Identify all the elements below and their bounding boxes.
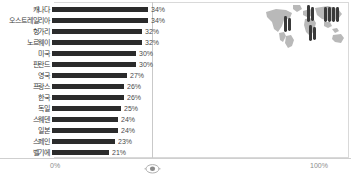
bar-value-label: 24% (121, 126, 135, 135)
bar-track: 30% (52, 48, 351, 59)
bar-row: 영국27% (0, 70, 351, 81)
bar-category-label: 스웨덴 (0, 115, 52, 124)
bar-category-label: 오스트레일리아 (0, 16, 52, 25)
bar-row: 한국26% (0, 92, 351, 103)
bar (52, 84, 124, 89)
bar-value-label: 23% (118, 137, 132, 146)
bar (52, 95, 124, 100)
bar-row: 벨기에21% (0, 147, 351, 158)
bar (52, 150, 109, 155)
bar-track: 24% (52, 125, 351, 136)
bar-value-label: 32% (145, 38, 159, 47)
x-axis-line (0, 158, 351, 159)
axis-center-marker-icon (144, 160, 161, 171)
bar-row: 미국30% (0, 48, 351, 59)
world-map-inset (262, 2, 348, 49)
bar (52, 18, 148, 23)
bar-row: 스페인23% (0, 136, 351, 147)
bar-category-label: 영국 (0, 71, 52, 80)
bar-track: 27% (52, 70, 351, 81)
bar-value-label: 32% (145, 27, 159, 36)
bar-value-label: 27% (130, 71, 144, 80)
bar (52, 40, 142, 45)
bar (52, 73, 127, 78)
bar-value-label: 26% (127, 93, 141, 102)
bar-category-label: 프랑스 (0, 82, 52, 91)
bar-category-label: 한국 (0, 93, 52, 102)
bar (52, 62, 136, 67)
bar-track: 21% (52, 147, 351, 158)
bar-category-label: 핀란드 (0, 60, 52, 69)
bar (52, 51, 136, 56)
bar-category-label: 미국 (0, 49, 52, 58)
bar-row: 스웨덴24% (0, 114, 351, 125)
bar-row: 독일25% (0, 103, 351, 114)
x-axis-tick-0: 0% (50, 162, 60, 169)
bar (52, 117, 118, 122)
bar (52, 29, 142, 34)
x-axis-tick-100: 100% (310, 162, 328, 169)
bar-chart: 캐나다34%오스트레일리아34%헝가리32%노르웨이32%미국30%핀란드30%… (0, 0, 351, 183)
bar (52, 7, 148, 12)
bar-category-label: 노르웨이 (0, 38, 52, 47)
bar-track: 24% (52, 114, 351, 125)
bar-category-label: 독일 (0, 104, 52, 113)
bar-category-label: 스페인 (0, 137, 52, 146)
bar-track: 25% (52, 103, 351, 114)
bar-value-label: 21% (112, 148, 126, 157)
bar-row: 핀란드30% (0, 59, 351, 70)
bar-track: 23% (52, 136, 351, 147)
bar-category-label: 캐나다 (0, 5, 52, 14)
bar-category-label: 벨기에 (0, 148, 52, 157)
bar (52, 128, 118, 133)
bar-track: 30% (52, 59, 351, 70)
bar-value-label: 34% (151, 5, 165, 14)
bar (52, 106, 121, 111)
bar-value-label: 24% (121, 115, 135, 124)
bar-row: 일본24% (0, 125, 351, 136)
bar-row: 프랑스26% (0, 81, 351, 92)
bar-value-label: 26% (127, 82, 141, 91)
bar-category-label: 일본 (0, 126, 52, 135)
bar-value-label: 30% (139, 60, 153, 69)
bar-value-label: 30% (139, 49, 153, 58)
bar-track: 26% (52, 81, 351, 92)
bar-value-label: 34% (151, 16, 165, 25)
bar-value-label: 25% (124, 104, 138, 113)
bar-category-label: 헝가리 (0, 27, 52, 36)
bar-track: 26% (52, 92, 351, 103)
bar (52, 139, 115, 144)
